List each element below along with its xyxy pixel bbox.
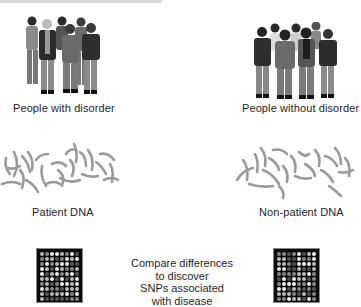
- microarray-spot: [40, 262, 44, 266]
- microarray-spot: [75, 282, 79, 286]
- microarray-spot: [40, 287, 44, 291]
- microarray-spot: [282, 292, 286, 296]
- microarray-spot: [312, 277, 316, 281]
- microarray-spot: [65, 272, 69, 276]
- microarray-spot: [277, 267, 281, 271]
- people-with-disorder-icon: [20, 12, 105, 100]
- microarray-spot: [55, 282, 59, 286]
- microarray-spot: [312, 267, 316, 271]
- people-without-disorder-icon: [253, 22, 339, 100]
- microarray-spot: [297, 297, 301, 301]
- microarray-spot: [292, 297, 296, 301]
- microarray-spot: [307, 297, 311, 301]
- microarray-spot: [282, 257, 286, 261]
- microarray-spot: [302, 277, 306, 281]
- microarray-spot: [302, 282, 306, 286]
- microarray-spot: [312, 292, 316, 296]
- microarray-spot: [40, 257, 44, 261]
- microarray-spot: [75, 287, 79, 291]
- non-patient-dna-strands-icon: [233, 140, 358, 200]
- microarray-spot: [45, 252, 49, 256]
- microarray-spot: [277, 272, 281, 276]
- microarray-spot: [282, 287, 286, 291]
- microarray-spot: [292, 277, 296, 281]
- microarray-spot: [75, 272, 79, 276]
- microarray-spot: [55, 287, 59, 291]
- microarray-spot: [302, 292, 306, 296]
- microarray-spot: [40, 292, 44, 296]
- microarray-spot: [55, 272, 59, 276]
- microarray-spot: [55, 297, 59, 301]
- microarray-spot: [75, 267, 79, 271]
- microarray-spot: [45, 272, 49, 276]
- microarray-spot: [287, 282, 291, 286]
- microarray-spot: [75, 257, 79, 261]
- microarray-spot: [307, 292, 311, 296]
- microarray-spot: [70, 272, 74, 276]
- microarray-spot: [60, 262, 64, 266]
- microarray-spot: [297, 287, 301, 291]
- microarray-spot: [60, 277, 64, 281]
- microarray-spot: [297, 272, 301, 276]
- microarray-spot: [297, 277, 301, 281]
- microarray-spot: [70, 297, 74, 301]
- microarray-spot: [307, 257, 311, 261]
- microarray-spot: [55, 252, 59, 256]
- caption-line-1: Compare differences: [128, 257, 236, 270]
- microarray-spot: [60, 282, 64, 286]
- microarray-spot: [50, 257, 54, 261]
- microarray-spot: [307, 262, 311, 266]
- microarray-spot: [302, 287, 306, 291]
- microarray-spot: [65, 292, 69, 296]
- microarray-spot: [312, 272, 316, 276]
- microarray-spot: [70, 257, 74, 261]
- microarray-spot: [55, 277, 59, 281]
- microarray-spot: [50, 252, 54, 256]
- microarray-spot: [307, 272, 311, 276]
- microarray-spot: [302, 297, 306, 301]
- microarray-spot: [45, 287, 49, 291]
- microarray-spot: [75, 292, 79, 296]
- microarray-spot: [287, 272, 291, 276]
- microarray-spot: [50, 292, 54, 296]
- microarray-spot: [40, 267, 44, 271]
- microarray-spot: [282, 272, 286, 276]
- microarray-spot: [45, 277, 49, 281]
- microarray-spot: [45, 297, 49, 301]
- microarray-spot: [45, 262, 49, 266]
- microarray-spot: [40, 277, 44, 281]
- microarray-spot: [55, 262, 59, 266]
- microarray-spot: [302, 257, 306, 261]
- microarray-spot: [60, 272, 64, 276]
- microarray-spot: [50, 287, 54, 291]
- microarray-spot: [292, 252, 296, 256]
- microarray-spot: [292, 272, 296, 276]
- microarray-spot: [307, 277, 311, 281]
- microarray-spot: [40, 252, 44, 256]
- caption-line-2: to discover: [128, 270, 236, 283]
- microarray-spot: [45, 292, 49, 296]
- microarray-spot: [287, 267, 291, 271]
- microarray-spot: [312, 297, 316, 301]
- caption-line-4: with disease: [128, 295, 236, 307]
- microarray-spot: [75, 252, 79, 256]
- microarray-spot: [40, 297, 44, 301]
- microarray-spot: [75, 297, 79, 301]
- microarray-spot: [65, 252, 69, 256]
- microarray-spot: [75, 262, 79, 266]
- microarray-spot: [277, 252, 281, 256]
- microarray-spot: [65, 287, 69, 291]
- microarray-spot: [55, 267, 59, 271]
- microarray-spot: [307, 267, 311, 271]
- microarray-spot: [50, 277, 54, 281]
- microarray-spot: [277, 262, 281, 266]
- people-without-disorder-label: People without disorder: [242, 102, 359, 114]
- microarray-spot: [307, 282, 311, 286]
- microarray-spot: [65, 282, 69, 286]
- microarray-spot: [282, 282, 286, 286]
- microarray-spot: [50, 267, 54, 271]
- microarray-spot: [60, 252, 64, 256]
- microarray-spot: [50, 297, 54, 301]
- microarray-spot: [277, 282, 281, 286]
- microarray-spot: [307, 252, 311, 256]
